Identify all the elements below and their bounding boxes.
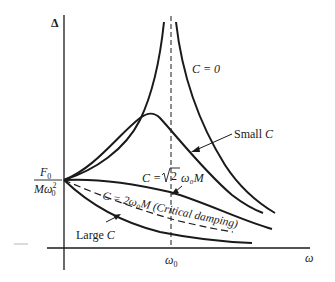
label-sqrt2-root: 2 (171, 169, 177, 183)
omega-symbol: ω (165, 253, 173, 267)
label-sqrt2-prefix: C = (142, 171, 161, 185)
label-sqrt2: C = 2 ω₀M (142, 168, 205, 185)
label-small-c-text: Small (234, 127, 265, 141)
label-large-c-var: C (107, 228, 116, 242)
small-c-arrowhead (191, 146, 200, 152)
fraction-numerator: F0 (39, 165, 51, 181)
resonance-diagram: Δ C = 0 Small C C = 2 ω₀M C = 2ω₀M (Crit… (0, 0, 335, 282)
label-large-c: Large C (76, 228, 116, 242)
denominator-sub: 0 (51, 189, 55, 198)
x-tick-label-omega0: ω0 (165, 253, 177, 269)
omega-subscript: 0 (173, 260, 177, 269)
x-axis-label: ω (305, 251, 313, 265)
label-large-c-text: Large (76, 228, 107, 242)
label-small-c: Small C (234, 127, 274, 141)
large-c-arrow-line (106, 217, 116, 222)
diagram-canvas: Δ C = 0 Small C C = 2 ω₀M C = 2ω₀M (Crit… (0, 0, 335, 282)
denominator-m-omega: Mω (33, 182, 52, 196)
label-c-zero: C = 0 (192, 62, 220, 76)
fraction-denominator: Mω20 (33, 181, 56, 198)
y-intercept-label: F0 Mω20 (33, 165, 62, 198)
curve-c-zero-left (64, 22, 164, 180)
label-small-c-var: C (265, 127, 274, 141)
y-axis-label: Δ (51, 16, 59, 30)
label-sqrt2-suffix: ω₀M (181, 171, 205, 185)
